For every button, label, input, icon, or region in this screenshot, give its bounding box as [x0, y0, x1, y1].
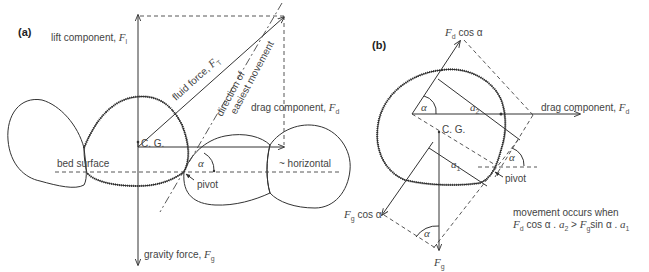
- dashed-fd-right: [495, 115, 533, 177]
- sediment-force-diagram: (a) α pivot lift component, Fl fluid f: [0, 0, 649, 272]
- gravity-label: gravity force, Fg: [144, 248, 215, 263]
- fd-cos-arrow: [412, 41, 460, 114]
- panel-a: (a) α pivot lift component, Fl fluid f: [8, 3, 350, 265]
- horizontal-label: ~ horizontal: [279, 158, 331, 169]
- panel-b-label: (b): [372, 39, 386, 51]
- pivot-arrow-b: [495, 172, 503, 177]
- lift-label: lift component, Fl: [51, 31, 128, 45]
- main-grain-outline: [84, 97, 188, 186]
- fg-label: Fg: [433, 256, 445, 271]
- fg-cos-label: Fg cos α: [343, 208, 382, 223]
- alpha-pivot: α: [509, 151, 515, 163]
- pivot-arrow: [186, 174, 194, 180]
- drag-label-a: drag component, Fd: [251, 101, 340, 115]
- drag-label-b: drag component, Fd: [541, 101, 630, 115]
- dashed-pivot-line: [432, 140, 518, 250]
- a1-label: a1: [451, 158, 461, 172]
- alpha-label: α: [198, 157, 204, 169]
- cg-label-b: C. G.: [442, 124, 465, 135]
- fg-cos-arrow: [382, 142, 433, 215]
- alpha-arc: [204, 153, 214, 171]
- panel-a-label: (a): [18, 26, 32, 38]
- bed-surface-label: bed surface: [57, 158, 110, 169]
- condition-line-1: movement occurs when: [513, 207, 619, 218]
- a2-label: a2: [470, 101, 480, 115]
- cg-label-a: C. G.: [141, 138, 164, 149]
- alpha-top: α: [421, 101, 427, 113]
- pivot-label-b: pivot: [505, 173, 526, 184]
- right-grain-1: [184, 135, 270, 206]
- pivot-label: pivot: [197, 179, 218, 190]
- alpha-bottom: α: [424, 227, 430, 239]
- fd-cos-label: Fd cos α: [444, 26, 483, 40]
- left-grain: [8, 99, 86, 187]
- condition-line-2: Fd cos α . a2 > Fgsin α . a1: [512, 218, 630, 233]
- panel-b: (b) α α α pivot: [343, 26, 630, 271]
